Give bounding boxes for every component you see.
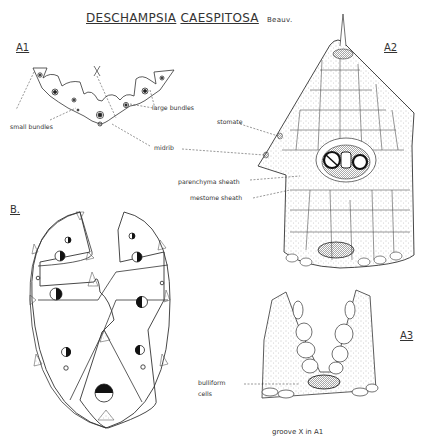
figure-a1-leaf-section [16,66,174,146]
figure-a2-midrib-detail [182,14,414,268]
botanical-plate: DESCHAMPSIA CAESPITOSA Beauv. A1 A2 B. A… [0,0,424,441]
label-mestome-sheath: mestome sheath [190,194,242,201]
label-small-bundles: small bundles [10,123,53,130]
label-midrib: midrib [154,144,174,151]
illustration-canvas [0,0,424,441]
label-large-bundles: large bundles [152,104,194,111]
label-stomate: stomate [217,118,243,125]
label-bulliform: bulliform [198,379,225,386]
figure-a3-groove-detail [244,290,378,398]
label-cells: cells [198,390,212,397]
caption-groove-x: groove X in A1 [272,428,323,436]
figure-b-oval-section [30,212,170,428]
label-parenchyma-sheath: parenchyma sheath [178,178,240,185]
